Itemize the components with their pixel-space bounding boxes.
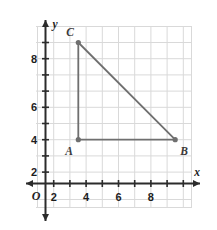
- point-b: [173, 137, 178, 142]
- point-a: [76, 137, 81, 142]
- point-label-a: A: [64, 145, 73, 157]
- point-c: [76, 40, 81, 45]
- x-tick-label-6: 6: [115, 191, 121, 203]
- x-axis-label: x: [193, 166, 200, 178]
- coordinate-plane-figure: 3: [0, 0, 217, 230]
- y-tick-label-8: 8: [31, 53, 37, 65]
- origin-label: O: [32, 189, 41, 203]
- y-tick-label-4: 4: [31, 134, 38, 146]
- point-label-b: B: [179, 145, 188, 157]
- x-tick-label-2: 2: [51, 191, 57, 203]
- x-tick-label-8: 8: [148, 191, 154, 203]
- y-tick-label-6: 6: [31, 101, 37, 113]
- x-tick-label-4: 4: [83, 191, 90, 203]
- y-tick-label-2: 2: [31, 166, 37, 178]
- point-label-c: C: [66, 26, 74, 38]
- y-axis-label: y: [50, 18, 58, 31]
- coordinate-grid-plot: A B C 2 4 6 8 2 4 6 8 O x y: [0, 0, 217, 230]
